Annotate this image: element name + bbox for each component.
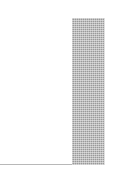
bar-edge	[104, 18, 105, 165]
bar	[72, 18, 104, 165]
x-axis-baseline	[0, 164, 73, 165]
